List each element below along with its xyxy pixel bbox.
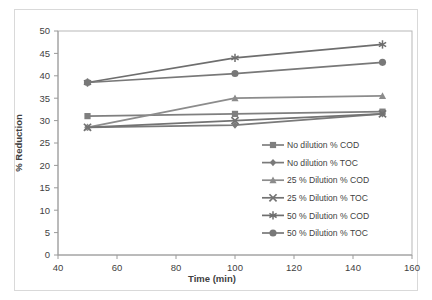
data-point-marker: [84, 113, 90, 119]
legend-marker: [270, 142, 276, 148]
x-tick-label: 60: [112, 262, 123, 273]
chart-figure: 05101520253035404550 406080100120140160 …: [0, 0, 432, 300]
series-5: [84, 59, 386, 86]
legend-label: No dilution % TOC: [287, 158, 358, 168]
legend-label: 25 % Dilution % TOC: [287, 193, 368, 203]
legend-label: 25 % Dilution % COD: [287, 175, 369, 185]
legend-item-4[interactable]: 50 % Dilution % COD: [262, 211, 369, 221]
y-tick-label: 20: [39, 160, 50, 171]
chart-legend: No dilution % CODNo dilution % TOC25 % D…: [262, 140, 369, 238]
data-point-marker: [84, 79, 91, 86]
data-point-marker: [232, 111, 238, 117]
x-axis-title: Time (min): [188, 273, 236, 284]
legend-item-2[interactable]: 25 % Dilution % COD: [262, 175, 369, 185]
y-axis-ticks: 05101520253035404550: [39, 25, 58, 260]
x-axis-ticks: 406080100120140160: [53, 255, 420, 273]
y-tick-label: 30: [39, 115, 50, 126]
data-point-marker: [231, 70, 238, 77]
x-tick-label: 160: [404, 262, 420, 273]
y-tick-label: 45: [39, 48, 50, 59]
line-chart: 05101520253035404550 406080100120140160 …: [0, 0, 432, 300]
legend-label: 50 % Dilution % TOC: [287, 228, 368, 238]
x-tick-label: 40: [53, 262, 64, 273]
legend-label: No dilution % COD: [287, 140, 359, 150]
x-tick-label: 120: [286, 262, 302, 273]
y-tick-label: 35: [39, 93, 50, 104]
x-tick-label: 140: [345, 262, 361, 273]
data-series-group: [84, 40, 386, 131]
legend-marker: [270, 159, 277, 166]
y-tick-label: 50: [39, 25, 50, 36]
y-axis-title: % Reduction: [13, 114, 24, 172]
x-tick-label: 100: [227, 262, 243, 273]
y-tick-label: 25: [39, 137, 50, 148]
data-point-marker: [379, 59, 386, 66]
legend-item-1[interactable]: No dilution % TOC: [262, 158, 358, 168]
y-tick-label: 0: [45, 249, 50, 260]
y-tick-label: 5: [45, 227, 50, 238]
x-tick-label: 80: [171, 262, 182, 273]
legend-label: 50 % Dilution % COD: [287, 211, 369, 221]
legend-item-0[interactable]: No dilution % COD: [262, 140, 359, 150]
y-tick-label: 10: [39, 205, 50, 216]
legend-marker: [269, 229, 276, 236]
legend-item-5[interactable]: 50 % Dilution % TOC: [262, 228, 368, 238]
y-tick-label: 15: [39, 182, 50, 193]
legend-item-3[interactable]: 25 % Dilution % TOC: [262, 193, 368, 203]
y-tick-label: 40: [39, 70, 50, 81]
